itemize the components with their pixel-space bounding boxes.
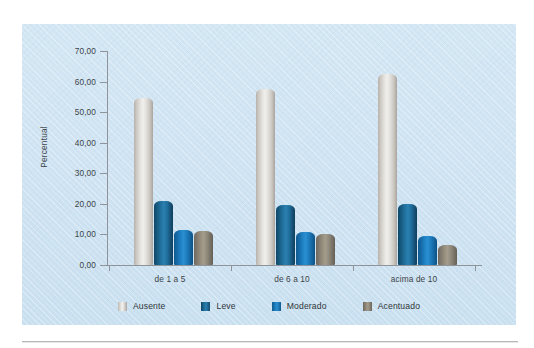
legend-label: Moderado	[287, 301, 327, 311]
chart-legend: AusenteLeveModeradoAcentuado	[22, 301, 516, 311]
x-axis-category-label: de 1 a 5	[110, 274, 230, 284]
y-axis-tick-label: 30,00	[34, 168, 96, 178]
legend-item-leve[interactable]: Leve	[201, 301, 235, 311]
y-axis-tick	[100, 82, 107, 83]
y-axis-tick-label: 50,00	[34, 107, 96, 117]
bar-acentuado-3	[438, 245, 457, 265]
x-axis-category-label: acima de 10	[354, 274, 474, 284]
bar-acentuado-1	[194, 231, 213, 265]
x-axis-category-label: de 6 a 10	[232, 274, 352, 284]
bar-leve-2	[276, 205, 295, 265]
legend-swatch-icon	[201, 302, 210, 311]
legend-swatch-icon	[363, 302, 372, 311]
y-axis-tick-label: 10,00	[34, 229, 96, 239]
y-axis-tick	[100, 265, 107, 266]
y-axis-tick	[100, 204, 107, 205]
y-axis-labels: 0,0010,0020,0030,0040,0050,0060,0070,00	[22, 24, 96, 325]
bar-ausente-1	[134, 98, 153, 265]
x-axis-tick	[475, 265, 476, 271]
bar-leve-3	[398, 204, 417, 265]
x-axis-tick	[231, 265, 232, 271]
y-axis-tick-label: 40,00	[34, 138, 96, 148]
y-axis-tick-label: 0,00	[34, 260, 96, 270]
y-axis-tick	[100, 234, 107, 235]
legend-swatch-icon	[272, 302, 281, 311]
legend-swatch-icon	[118, 302, 127, 311]
bar-group	[134, 51, 214, 265]
bar-leve-1	[154, 201, 173, 266]
bottom-horizontal-rule	[22, 341, 518, 343]
plot-area	[107, 51, 481, 265]
y-axis-tick-label: 20,00	[34, 199, 96, 209]
x-axis-line	[107, 265, 482, 266]
legend-item-ausente[interactable]: Ausente	[118, 301, 166, 311]
y-axis-tick	[100, 112, 107, 113]
legend-item-moderado[interactable]: Moderado	[272, 301, 327, 311]
x-axis-tick	[109, 265, 110, 271]
clipped-text-above-figure	[14, 0, 314, 6]
chart-panel: Percentual 0,0010,0020,0030,0040,0050,00…	[22, 24, 516, 325]
legend-label: Leve	[216, 301, 235, 311]
bar-acentuado-2	[316, 234, 335, 265]
y-axis-tick-label: 70,00	[34, 46, 96, 56]
y-axis-tick-label: 60,00	[34, 77, 96, 87]
bar-group	[256, 51, 336, 265]
bar-ausente-3	[378, 74, 397, 265]
y-axis-tick	[100, 51, 107, 52]
bar-group	[378, 51, 458, 265]
x-axis-tick	[353, 265, 354, 271]
bar-moderado-3	[418, 236, 437, 265]
legend-label: Acentuado	[378, 301, 420, 311]
bar-moderado-2	[296, 232, 315, 265]
y-axis-tick	[100, 173, 107, 174]
legend-item-acentuado[interactable]: Acentuado	[363, 301, 420, 311]
bar-ausente-2	[256, 89, 275, 265]
y-axis-tick	[100, 143, 107, 144]
legend-label: Ausente	[133, 301, 166, 311]
bar-moderado-1	[174, 230, 193, 265]
